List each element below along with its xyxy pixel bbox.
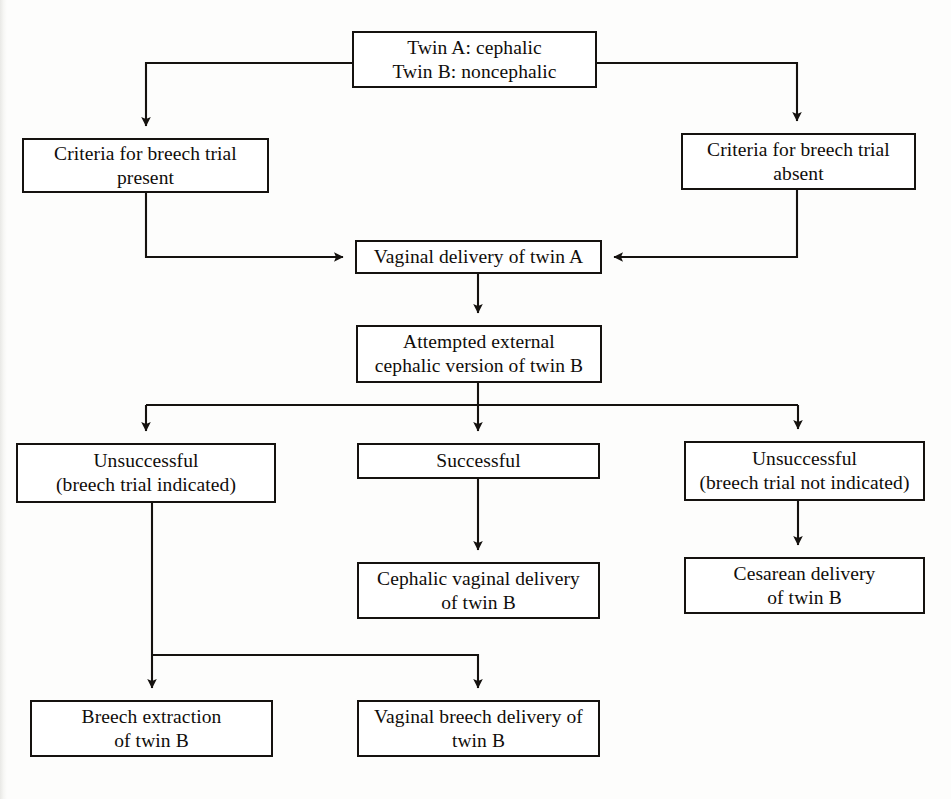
node-label: Cesarean delivery of twin B xyxy=(734,562,876,610)
connector-criteria-absent-to-vaginal xyxy=(614,190,797,257)
node-breech-extraction-twin-b: Breech extraction of twin B xyxy=(30,700,273,757)
node-vaginal-breech-delivery-twin-b: Vaginal breech delivery of twin B xyxy=(357,700,600,757)
node-cephalic-vaginal-delivery-twin-b: Cephalic vaginal delivery of twin B xyxy=(357,562,600,619)
flowchart-diagram: Twin A: cephalic Twin B: noncephalic Cri… xyxy=(0,0,951,799)
node-successful: Successful xyxy=(357,443,600,479)
connector-unsuccessful-indicated-to-vaginal-breech xyxy=(152,655,478,688)
connector-presentation-to-criteria-present xyxy=(146,63,352,126)
node-criteria-absent: Criteria for breech trial absent xyxy=(681,133,916,190)
node-unsuccessful-breech-not-indicated: Unsuccessful (breech trial not indicated… xyxy=(684,441,925,501)
node-label: Criteria for breech trial absent xyxy=(707,138,890,186)
node-cesarean-delivery-twin-b: Cesarean delivery of twin B xyxy=(684,557,925,614)
node-label: Vaginal breech delivery of twin B xyxy=(374,705,583,753)
node-label: Vaginal delivery of twin A xyxy=(374,245,583,269)
node-label: Successful xyxy=(436,449,520,473)
node-label: Cephalic vaginal delivery of twin B xyxy=(377,567,580,615)
node-external-cephalic-version: Attempted external cephalic version of t… xyxy=(356,325,602,383)
node-label: Unsuccessful (breech trial indicated) xyxy=(56,449,236,497)
connector-criteria-present-to-vaginal xyxy=(146,193,343,257)
node-label: Attempted external cephalic version of t… xyxy=(375,330,583,378)
node-criteria-present: Criteria for breech trial present xyxy=(22,138,269,193)
node-unsuccessful-breech-indicated: Unsuccessful (breech trial indicated) xyxy=(16,443,276,503)
connector-presentation-to-criteria-absent xyxy=(597,63,797,121)
node-label: Twin A: cephalic Twin B: noncephalic xyxy=(392,36,556,84)
node-label: Unsuccessful (breech trial not indicated… xyxy=(699,447,909,495)
node-label: Criteria for breech trial present xyxy=(54,142,237,190)
node-label: Breech extraction of twin B xyxy=(82,705,222,753)
connector-layer xyxy=(0,0,951,799)
node-vaginal-delivery-twin-a: Vaginal delivery of twin A xyxy=(355,240,602,274)
node-twin-presentation: Twin A: cephalic Twin B: noncephalic xyxy=(352,31,597,88)
